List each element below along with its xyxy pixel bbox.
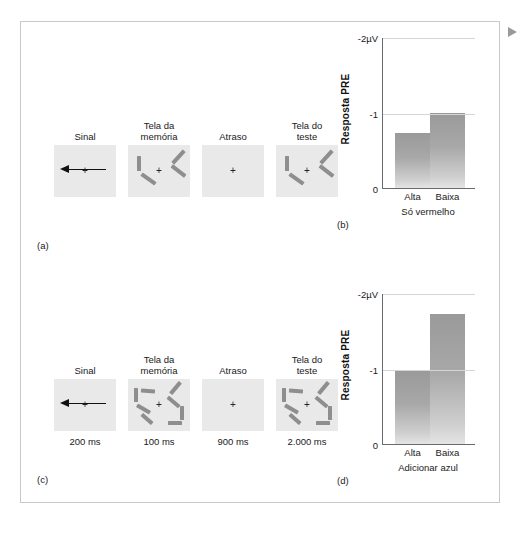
delay-screen: + bbox=[202, 379, 264, 431]
gridline bbox=[383, 370, 475, 371]
trial-sequence-add-blue: Sinal+Tela da memória+Atraso+Tela do tes… bbox=[54, 352, 338, 447]
bar bbox=[395, 371, 430, 444]
category-labels: AltaBaixa bbox=[395, 447, 465, 458]
stimulus-bar bbox=[319, 164, 335, 178]
stimulus-bar bbox=[141, 389, 155, 394]
stimulus-bar bbox=[317, 381, 330, 395]
y-tick-label: -2µV bbox=[358, 289, 378, 300]
stimulus-bar bbox=[282, 388, 286, 402]
stimulus-bar bbox=[314, 396, 328, 409]
x-tick-label: Baixa bbox=[430, 191, 465, 202]
stimulus-bar bbox=[171, 164, 187, 178]
test-screen: + bbox=[276, 145, 338, 197]
chart-red-only: Resposta PRE AltaBaixa -2µV-10 Só vermel… bbox=[340, 30, 490, 230]
memory-screen: + bbox=[128, 145, 190, 197]
stimulus-bar bbox=[285, 156, 289, 171]
y-axis-label: Resposta PRE bbox=[340, 330, 351, 401]
bar bbox=[395, 133, 430, 188]
y-tick-label: 0 bbox=[373, 440, 378, 451]
x-tick-label: Alta bbox=[395, 191, 430, 202]
x-tick-label: Alta bbox=[395, 447, 430, 458]
fixation-cross: + bbox=[304, 166, 310, 176]
y-tick-label: -1 bbox=[370, 108, 378, 119]
screen-cell: Atraso+ bbox=[202, 118, 264, 197]
screen-title: Tela da memória bbox=[128, 118, 190, 142]
screen-cell: Atraso+ bbox=[202, 352, 264, 431]
screen-row: Sinal+Tela da memória+Atraso+Tela do tes… bbox=[54, 118, 338, 197]
timing-label: 200 ms bbox=[54, 436, 116, 447]
fixation-cross: + bbox=[304, 400, 310, 410]
stimulus-bar bbox=[180, 406, 184, 420]
timing-label: 100 ms bbox=[128, 436, 190, 447]
timing-label: 900 ms bbox=[202, 436, 264, 447]
chart-title-red-only: Só vermelho bbox=[382, 206, 474, 217]
stimulus-bar bbox=[328, 406, 332, 420]
cue-screen: + bbox=[54, 379, 116, 431]
y-axis-label: Resposta PRE bbox=[340, 74, 351, 145]
panel-label-d: (d) bbox=[337, 475, 349, 486]
bar bbox=[430, 314, 465, 444]
fixation-cross: + bbox=[156, 400, 162, 410]
stimulus-bar bbox=[166, 396, 180, 409]
triangle-right-icon bbox=[508, 27, 517, 37]
y-tick-label: -1 bbox=[370, 364, 378, 375]
fixation-cross: + bbox=[82, 166, 88, 176]
screen-cell: Sinal+ bbox=[54, 352, 116, 431]
timing-label: 2.000 ms bbox=[276, 436, 338, 447]
chart-title-add-blue: Adicionar azul bbox=[382, 462, 474, 473]
x-tick-label: Baixa bbox=[430, 447, 465, 458]
fixation-cross: + bbox=[82, 400, 88, 410]
stimulus-bar bbox=[171, 149, 185, 164]
y-tick-label: -2µV bbox=[358, 33, 378, 44]
screen-title: Atraso bbox=[202, 118, 264, 142]
panel-label-c: (c) bbox=[37, 474, 48, 485]
plot-area: AltaBaixa -2µV-10 bbox=[382, 38, 475, 189]
stimulus-bar bbox=[137, 156, 141, 171]
delay-screen: + bbox=[202, 145, 264, 197]
category-labels: AltaBaixa bbox=[395, 191, 465, 202]
bar bbox=[430, 113, 465, 189]
screen-title: Tela do teste bbox=[276, 352, 338, 376]
panel-label-b: (b) bbox=[337, 219, 349, 230]
test-screen: + bbox=[276, 379, 338, 431]
screen-cell: Tela do teste+ bbox=[276, 352, 338, 431]
screen-row: Sinal+Tela da memória+Atraso+Tela do tes… bbox=[54, 352, 338, 431]
screen-cell: Tela do teste+ bbox=[276, 118, 338, 197]
y-tick-label: 0 bbox=[373, 184, 378, 195]
screen-title: Sinal bbox=[54, 118, 116, 142]
stimulus-bar bbox=[316, 421, 330, 425]
cue-screen: + bbox=[54, 145, 116, 197]
fixation-cross: + bbox=[230, 400, 236, 410]
screen-cell: Sinal+ bbox=[54, 118, 116, 197]
fixation-cross: + bbox=[156, 166, 162, 176]
plot-area: AltaBaixa -2µV-10 bbox=[382, 294, 475, 445]
stimulus-bar bbox=[288, 172, 304, 185]
gridline bbox=[383, 114, 475, 115]
screen-title: Atraso bbox=[202, 352, 264, 376]
stimulus-bar bbox=[288, 413, 301, 425]
gridline bbox=[383, 294, 475, 295]
stimulus-bar bbox=[168, 421, 182, 425]
gridline bbox=[383, 38, 475, 39]
chart-add-blue: Resposta PRE AltaBaixa -2µV-10 Adicionar… bbox=[340, 286, 490, 486]
stimulus-bar bbox=[289, 389, 303, 394]
screen-cell: Tela da memória+ bbox=[128, 118, 190, 197]
panel-label-a: (a) bbox=[37, 240, 49, 251]
memory-screen: + bbox=[128, 379, 190, 431]
screen-title: Sinal bbox=[54, 352, 116, 376]
screen-title: Tela da memória bbox=[128, 352, 190, 376]
fixation-cross: + bbox=[230, 166, 236, 176]
screen-title: Tela do teste bbox=[276, 118, 338, 142]
screen-cell: Tela da memória+ bbox=[128, 352, 190, 431]
timing-row: 200 ms100 ms900 ms2.000 ms bbox=[54, 436, 338, 447]
trial-sequence-red-only: Sinal+Tela da memória+Atraso+Tela do tes… bbox=[54, 118, 338, 197]
stimulus-bar bbox=[134, 388, 138, 402]
stimulus-bar bbox=[140, 172, 156, 185]
stimulus-bar bbox=[140, 413, 153, 425]
stimulus-bar bbox=[319, 149, 333, 164]
stimulus-bar bbox=[169, 381, 182, 395]
